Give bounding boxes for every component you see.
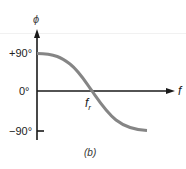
ytick-minus90: −90°: [9, 126, 32, 137]
y-axis-label: ϕ: [33, 14, 39, 25]
figure-caption: (b): [84, 148, 96, 158]
phase-curve: [37, 54, 147, 131]
x-axis-arrow-icon: [166, 88, 175, 94]
ytick-plus90: +90°: [9, 48, 32, 59]
fr-sub: r: [88, 103, 91, 112]
resonant-frequency-label: fr: [85, 97, 91, 112]
ytick-zero: 0°: [19, 86, 30, 97]
y-axis-arrow-icon: [34, 29, 40, 38]
x-axis-label: f: [178, 85, 181, 97]
